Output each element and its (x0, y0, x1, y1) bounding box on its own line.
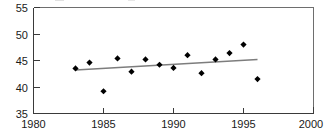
data-point (142, 56, 148, 62)
x-tick-label-1980: 1980 (21, 118, 45, 130)
data-point (128, 69, 134, 75)
top-crop-artifact (55, 0, 135, 1)
data-point (198, 70, 204, 76)
x-tick-label-1985: 1985 (91, 118, 115, 130)
data-point (100, 88, 106, 94)
data-point (240, 42, 246, 48)
y-tick-labels: 55 50 45 40 35 (16, 2, 28, 120)
plot-frame (34, 8, 314, 114)
y-tick-marks (34, 8, 40, 114)
y-tick-label-55: 55 (16, 2, 28, 14)
data-point (114, 55, 120, 61)
chart-figure: 55 50 45 40 35 1980 1985 1990 1995 2000 (0, 0, 330, 132)
data-point (156, 62, 162, 68)
data-point (184, 52, 190, 58)
x-tick-marks (34, 107, 314, 114)
trend-line (76, 59, 258, 70)
scatter-plot: 55 50 45 40 35 1980 1985 1990 1995 2000 (0, 0, 330, 132)
x-tick-label-1995: 1995 (231, 118, 255, 130)
data-point (72, 65, 78, 71)
data-point (254, 76, 260, 82)
x-tick-labels: 1980 1985 1990 1995 2000 (21, 118, 323, 130)
data-point (170, 65, 176, 71)
y-tick-label-40: 40 (16, 82, 28, 94)
data-point (226, 50, 232, 56)
x-tick-label-1990: 1990 (161, 118, 185, 130)
x-tick-label-2000: 2000 (299, 118, 323, 130)
data-point (86, 60, 92, 66)
y-tick-label-45: 45 (16, 55, 28, 67)
y-tick-label-50: 50 (16, 29, 28, 41)
